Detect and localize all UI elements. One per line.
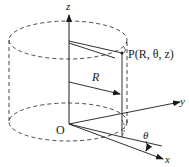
theta-line bbox=[122, 137, 162, 146]
top-radius-line-2 bbox=[69, 43, 115, 58]
cylinder-bottom-ellipse bbox=[9, 103, 127, 141]
x-axis bbox=[69, 124, 163, 159]
x-axis-label: x bbox=[165, 154, 170, 165]
z-axis-label: z bbox=[66, 1, 70, 12]
y-axis-label: y bbox=[180, 96, 185, 107]
origin-label: O bbox=[56, 124, 65, 136]
y-axis bbox=[69, 102, 180, 124]
projection-line bbox=[69, 124, 122, 137]
point-p-label: P(R, θ, z) bbox=[128, 48, 174, 60]
p-bracket bbox=[124, 47, 126, 53]
theta-label: θ bbox=[143, 130, 148, 141]
cylinder-top-ellipse bbox=[9, 21, 127, 59]
radius-label: R bbox=[92, 71, 99, 83]
